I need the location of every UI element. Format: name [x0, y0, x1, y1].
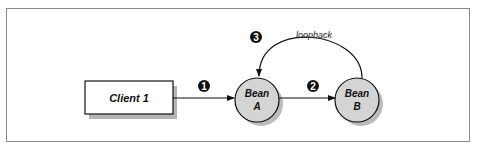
bean-a-node: Bean A: [235, 78, 283, 126]
client-1-node: Client 1: [85, 81, 177, 119]
bean-b-label-line2: B: [353, 101, 360, 112]
bean-b-node: Bean B: [335, 78, 383, 126]
step-1-badge: 1: [198, 80, 210, 92]
bean-a-label-line1: Bean: [245, 88, 269, 99]
edge-loopback: [259, 37, 362, 78]
step-3-badge: 3: [250, 31, 262, 43]
diagram-canvas: Client 1 1 Bean A 2 Bean B 3 loopback: [0, 0, 477, 151]
step-2-badge: 2: [307, 80, 319, 92]
loopback-label: loopback: [296, 30, 333, 40]
bean-a-label-line2: A: [252, 101, 260, 112]
svg-text:1: 1: [201, 81, 207, 92]
svg-text:2: 2: [310, 81, 316, 92]
bean-b-label-line1: Bean: [345, 88, 369, 99]
svg-text:3: 3: [253, 32, 259, 43]
client-1-label: Client 1: [109, 92, 149, 104]
